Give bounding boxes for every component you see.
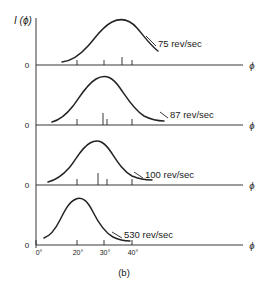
panel-75-rev-per-sec: 0 ϕ 75 rev/sec: [25, 20, 255, 71]
figure-container: I (ϕ) 0 ϕ 75 rev/sec 0 ϕ: [0, 0, 274, 284]
panel-4-zero-label: 0: [25, 241, 30, 250]
panel-2-phi-axis-label: ϕ: [249, 120, 254, 131]
panel-2-data-ticks: [77, 113, 132, 125]
panel-1-curve: [62, 20, 158, 62]
x-tick-label-30: 30°: [100, 249, 111, 256]
panel-1-data-ticks: [77, 57, 132, 65]
panel-3-data-ticks: [77, 173, 132, 185]
panel-3-curve: [48, 141, 152, 182]
x-tick-label-20: 20°: [73, 249, 84, 256]
intensity-vs-angle-figure: I (ϕ) 0 ϕ 75 rev/sec 0 ϕ: [0, 0, 274, 284]
x-axis-tick-labels: 0° 20° 30° 40°: [36, 249, 139, 256]
panel-100-rev-per-sec: 0 ϕ 100 rev/sec: [25, 141, 255, 191]
panel-530-rev-per-sec: 0 ϕ 530 rev/sec: [25, 198, 255, 251]
x-tick-label-40: 40°: [128, 249, 139, 256]
panel-1-phi-axis-label: ϕ: [249, 60, 254, 71]
panel-1-zero-label: 0: [25, 61, 30, 70]
x-axis-ticks: [36, 240, 132, 245]
panel-2-series-label: 87 rev/sec: [170, 109, 214, 120]
panel-2-curve: [52, 76, 164, 122]
panel-3-zero-label: 0: [25, 181, 30, 190]
panel-3-series-label: 100 rev/sec: [145, 169, 194, 180]
panel-2-zero-label: 0: [25, 121, 30, 130]
panel-4-phi-axis-label: ϕ: [249, 240, 254, 251]
panel-87-rev-per-sec: 0 ϕ 87 rev/sec: [25, 76, 255, 131]
panel-4-series-label: 530 rev/sec: [124, 229, 173, 240]
panel-3-phi-axis-label: ϕ: [249, 180, 254, 191]
x-tick-label-0: 0°: [36, 249, 43, 256]
panel-1-series-label: 75 rev/sec: [158, 38, 202, 49]
panel-2-leader-line: [160, 112, 168, 118]
figure-caption: (b): [118, 267, 130, 278]
y-axis-label: I (ϕ): [14, 15, 32, 26]
